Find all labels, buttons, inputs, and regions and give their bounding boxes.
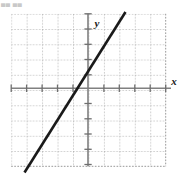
x-axis-label: x [170, 75, 177, 87]
plot-area: y x [0, 0, 181, 181]
y-axis-label: y [93, 17, 100, 29]
coordinate-graph-figure: ▄▄ ▄▄ [0, 0, 181, 181]
